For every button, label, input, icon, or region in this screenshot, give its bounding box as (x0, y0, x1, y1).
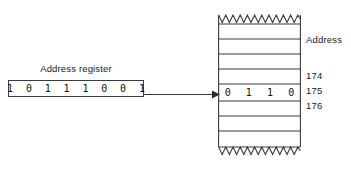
memory-column: 0 1 1 0 (218, 13, 301, 156)
memory-bottom-zigzag-icon (219, 147, 301, 155)
address-register-bits: 1 0 1 1 1 0 0 1 (4, 84, 149, 94)
memory-address-header: Address (306, 34, 342, 45)
address-register-box: 1 0 1 1 1 0 0 1 (8, 80, 144, 97)
address-register-group: Address register 1 0 1 1 1 0 0 1 (8, 63, 144, 97)
memory-address-174: 174 (306, 70, 322, 81)
memory-addressing-diagram: Address register 1 0 1 1 1 0 0 1 (0, 0, 351, 170)
memory-top-zigzag-icon (219, 15, 301, 23)
pointer-arrow (143, 86, 221, 103)
memory-cell-175-value: 0 1 1 0 (218, 85, 301, 101)
address-register-label: Address register (8, 63, 144, 75)
memory-address-175: 175 (306, 85, 322, 96)
memory-address-176: 176 (306, 100, 322, 111)
